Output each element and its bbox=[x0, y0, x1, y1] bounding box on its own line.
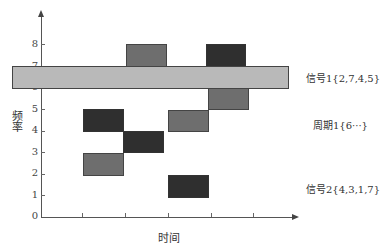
y-axis-title: 频率 bbox=[8, 110, 24, 132]
signal1-block-slot2 bbox=[126, 44, 167, 67]
signal2-block-slot3 bbox=[168, 175, 209, 198]
signal1-block-slot3 bbox=[168, 110, 209, 132]
x-axis-title: 时间 bbox=[158, 229, 180, 245]
x-axis bbox=[41, 217, 293, 218]
y-tick-label: 3 bbox=[26, 147, 38, 157]
signal1-block-slot4 bbox=[208, 88, 249, 110]
period1-bar bbox=[12, 66, 289, 89]
signal2-block-slot1 bbox=[83, 109, 124, 132]
y-tick-label: 2 bbox=[26, 168, 38, 178]
y-tick-label: 0 bbox=[26, 211, 38, 221]
x-axis-arrow-icon bbox=[292, 214, 299, 220]
y-axis-arrow-icon bbox=[38, 10, 44, 17]
y-tick-label: 8 bbox=[26, 39, 38, 49]
y-tick-label: 1 bbox=[26, 190, 38, 200]
y-tick bbox=[41, 195, 45, 196]
signal2-block-slot2 bbox=[123, 131, 164, 153]
y-tick bbox=[41, 109, 45, 110]
x-tick bbox=[211, 213, 212, 217]
legend-signal2: 信号2{4,3,1,7} bbox=[306, 181, 380, 196]
y-axis bbox=[41, 16, 42, 218]
x-tick bbox=[168, 213, 169, 217]
y-tick bbox=[41, 44, 45, 45]
y-tick bbox=[41, 131, 45, 132]
x-tick bbox=[253, 213, 254, 217]
y-tick bbox=[41, 174, 45, 175]
legend-period1: 周期1{6···} bbox=[313, 117, 368, 132]
signal2-block-slot4 bbox=[206, 44, 246, 67]
y-tick bbox=[41, 152, 45, 153]
y-tick-label: 5 bbox=[26, 104, 38, 114]
x-tick bbox=[125, 213, 126, 217]
x-tick bbox=[82, 213, 83, 217]
legend-signal1: 信号1{2,7,4,5} bbox=[306, 70, 380, 85]
signal1-block-slot1 bbox=[83, 153, 124, 176]
y-tick-label: 4 bbox=[26, 125, 38, 135]
